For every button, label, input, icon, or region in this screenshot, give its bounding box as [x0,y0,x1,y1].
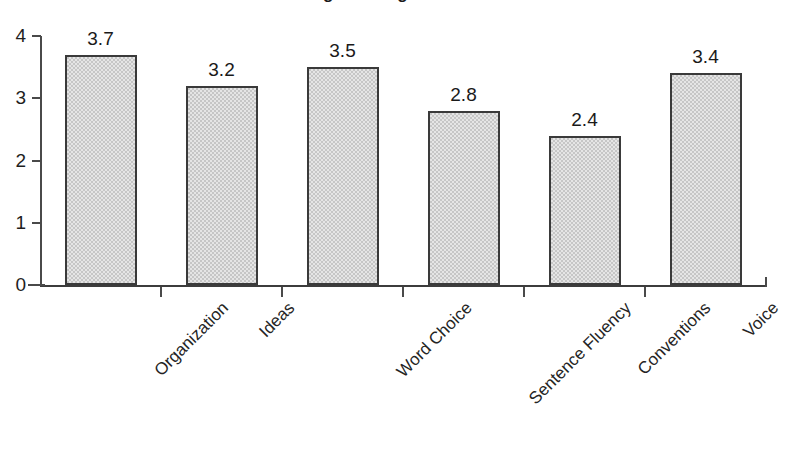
x-axis-end-tick [765,277,767,287]
category-label-voice: Voice [740,299,781,340]
y-tick-0 [28,284,45,286]
y-tick-label-0: 0 [0,275,26,294]
y-tick-1 [32,222,41,224]
y-tick-2 [32,160,41,162]
y-tick-label-2: 2 [0,151,26,170]
bar-chart: Average Writing Trait Scores 01234 3.73.… [0,0,788,458]
category-label-conventions: Conventions [634,299,713,378]
y-tick-label-4: 4 [0,26,26,45]
chart-title: Average Writing Trait Scores [0,0,788,4]
bar-value-organization: 3.7 [56,29,146,48]
x-tick-1 [160,287,162,297]
bar-value-conventions: 2.4 [540,110,630,129]
category-label-word-choice: Word Choice [393,299,474,380]
y-tick-label-3: 3 [0,88,26,107]
x-tick-2 [281,287,283,297]
y-tick-3 [32,97,41,99]
bar-value-ideas: 3.2 [177,60,267,79]
category-label-organization: Organization [151,299,231,379]
x-tick-3 [402,287,404,297]
x-tick-5 [644,287,646,297]
category-label-ideas: Ideas [256,299,297,340]
bar-organization [65,55,137,285]
bar-value-voice: 3.4 [661,47,751,66]
x-tick-4 [523,287,525,297]
bar-word-choice [307,67,379,285]
category-label-sentence-fluency: Sentence Fluency [525,299,633,407]
y-tick-label-1: 1 [0,213,26,232]
bar-sentence-fluency [428,111,500,285]
bar-value-word-choice: 3.5 [298,41,388,60]
bar-conventions [549,136,621,285]
y-tick-4 [32,35,41,37]
bar-value-sentence-fluency: 2.8 [419,85,509,104]
bar-ideas [186,86,258,285]
bar-voice [670,73,742,285]
